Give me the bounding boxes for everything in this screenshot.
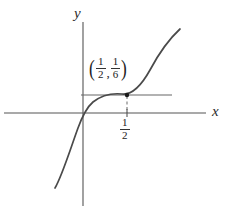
fraction-denominator: 6 xyxy=(111,69,121,81)
fraction-numerator: 1 xyxy=(120,117,130,130)
x-axis-label: x xyxy=(212,104,219,119)
fraction-one-half: 12 xyxy=(120,117,130,142)
plot-canvas xyxy=(0,0,232,218)
y-axis-label: y xyxy=(74,6,81,21)
fraction-denominator: 2 xyxy=(120,130,130,142)
fraction-numerator: 1 xyxy=(111,56,121,69)
fraction-one-sixth: 16 xyxy=(111,56,121,81)
open-paren: ( xyxy=(89,57,95,79)
point-coordinate-label: (12,16) xyxy=(88,56,128,81)
fraction-denominator: 2 xyxy=(96,69,106,81)
function-curve xyxy=(55,29,180,188)
graph-figure: y x (12,16) 12 xyxy=(0,0,232,218)
marked-point-dot xyxy=(125,93,129,97)
close-paren: ) xyxy=(121,57,127,79)
x-tick-label-one-half: 12 xyxy=(120,117,130,142)
fraction-one-half: 12 xyxy=(96,56,106,81)
fraction-numerator: 1 xyxy=(96,56,106,69)
coordinate-separator: , xyxy=(106,65,111,81)
